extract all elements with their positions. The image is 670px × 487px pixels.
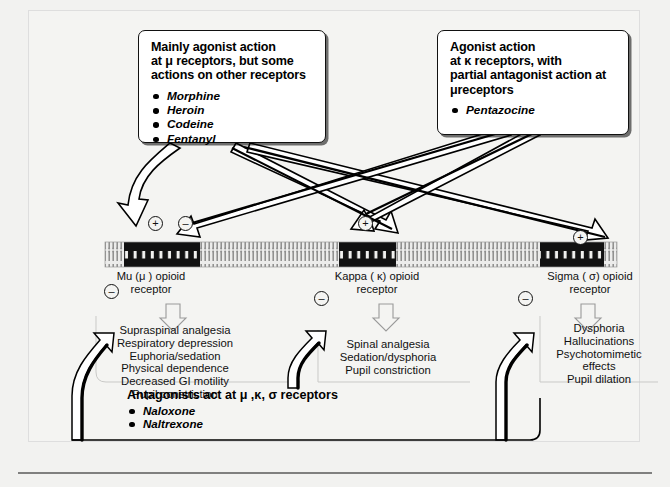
receptor-label-kappa: Kappa ( κ) opioid receptor xyxy=(318,270,436,295)
partial-agonist-drug-list: Pentazocine xyxy=(450,103,617,117)
list-item: Naltrexone xyxy=(72,417,542,430)
partial-agonist-heading: Agonist action at κ receptors, with part… xyxy=(450,40,617,97)
sign-plus-sigma: + xyxy=(573,230,588,245)
antagonist-heading: Antagonists act at μ ,κ, σ receptors xyxy=(127,388,542,402)
effect-line: Physical dependence xyxy=(96,362,254,375)
arrow-agonist-to-mu xyxy=(118,143,180,226)
effect-line: Decreased GI motility xyxy=(96,375,254,388)
antagonist-callout: Antagonists act at μ ,κ, σ receptors Nal… xyxy=(72,388,542,440)
list-item: Heroin xyxy=(151,103,314,117)
list-item: Fentanyl xyxy=(151,132,314,146)
effect-line: Supraspinal analgesia xyxy=(96,324,254,337)
mainly-agonist-callout: Mainly agonist action at μ receptors, bu… xyxy=(138,30,326,143)
receptor-block-sigma xyxy=(540,242,604,267)
effects-list-sigma: Dysphoria Hallucinations Psychotomimetic… xyxy=(540,322,658,386)
figure-root: Mainly agonist action at μ receptors, bu… xyxy=(0,0,670,487)
effect-arrow-kappa xyxy=(373,304,399,331)
mainly-agonist-heading: Mainly agonist action at μ receptors, bu… xyxy=(151,40,314,83)
effect-line: Pupil dilation xyxy=(540,373,658,386)
list-item: Codeine xyxy=(151,117,314,131)
receptor-block-kappa xyxy=(339,242,396,267)
list-item: Naloxone xyxy=(72,404,542,417)
effect-line: Euphoria/sedation xyxy=(96,350,254,363)
list-item: Pentazocine xyxy=(450,103,617,117)
sign-plus-mu: + xyxy=(148,216,163,231)
receptor-label-mu: Mu (μ ) opioid receptor xyxy=(92,270,210,295)
effect-line: Dysphoria xyxy=(540,322,658,335)
partial-agonist-callout: Agonist action at κ receptors, with part… xyxy=(437,30,629,135)
effect-line: effects xyxy=(540,360,658,373)
receptor-block-mu xyxy=(124,242,200,267)
sign-plus-kappa: + xyxy=(358,216,373,231)
antagonist-drug-list: Naloxone Naltrexone xyxy=(72,404,542,431)
sign-minus-mu: – xyxy=(178,216,193,231)
mainly-agonist-drug-list: Morphine Heroin Codeine Fentanyl xyxy=(151,89,314,147)
effect-line: Sedation/dysphoria xyxy=(318,351,458,364)
effects-list-kappa: Spinal analgesia Sedation/dysphoria Pupi… xyxy=(318,338,458,376)
receptor-label-sigma: Sigma ( σ) opioid receptor xyxy=(528,270,652,295)
list-item: Morphine xyxy=(151,89,314,103)
effect-line: Psychotomimetic xyxy=(540,348,658,361)
effect-line: Spinal analgesia xyxy=(318,338,458,351)
effect-line: Hallucinations xyxy=(540,335,658,348)
cell-membrane xyxy=(105,242,617,267)
effect-line: Pupil constriction xyxy=(318,364,458,377)
effect-line: Respiratory depression xyxy=(96,337,254,350)
